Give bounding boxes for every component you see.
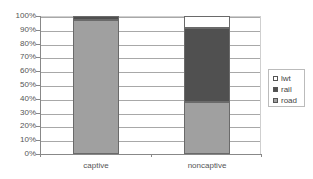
legend-label: rail	[281, 85, 292, 94]
x-tick	[151, 154, 152, 157]
legend-swatch-icon	[273, 98, 278, 103]
legend-swatch-icon	[273, 76, 278, 81]
y-tick-label: 100%	[0, 12, 36, 20]
bar-segment-rail	[73, 16, 119, 20]
y-tick	[36, 16, 40, 17]
y-tick-label: 80%	[0, 40, 36, 48]
y-tick	[36, 71, 40, 72]
legend-swatch-icon	[273, 87, 278, 92]
y-tick-label: 70%	[0, 53, 36, 61]
legend-label: road	[281, 96, 297, 105]
bar-segment-lwt	[184, 16, 230, 28]
y-tick-label: 50%	[0, 81, 36, 89]
y-tick-label: 0%	[0, 150, 36, 158]
y-tick	[36, 85, 40, 86]
x-tick-label: captive	[56, 161, 136, 170]
bar-segment-rail	[184, 28, 230, 101]
x-tick	[261, 154, 262, 157]
y-tick	[36, 113, 40, 114]
x-axis	[36, 154, 261, 155]
legend-item-road: road	[273, 96, 297, 105]
y-axis	[40, 16, 41, 154]
legend: lwtrailroad	[268, 69, 305, 107]
x-tick	[40, 154, 41, 157]
y-tick	[36, 57, 40, 58]
bar-segment-road	[184, 102, 230, 154]
y-tick-label: 90%	[0, 26, 36, 34]
legend-item-lwt: lwt	[273, 74, 291, 83]
bar-captive	[73, 16, 119, 154]
y-tick-label: 10%	[0, 136, 36, 144]
y-tick	[36, 99, 40, 100]
bar-noncaptive	[184, 16, 230, 154]
y-tick	[36, 140, 40, 141]
x-tick-label: noncaptive	[167, 161, 247, 170]
legend-item-rail: rail	[273, 85, 292, 94]
legend-label: lwt	[281, 74, 291, 83]
y-tick	[36, 126, 40, 127]
y-tick	[36, 30, 40, 31]
y-tick	[36, 44, 40, 45]
y-tick-label: 40%	[0, 95, 36, 103]
y-tick-label: 60%	[0, 67, 36, 75]
bar-segment-road	[73, 20, 119, 154]
y-tick-label: 30%	[0, 109, 36, 117]
y-tick-label: 20%	[0, 122, 36, 130]
